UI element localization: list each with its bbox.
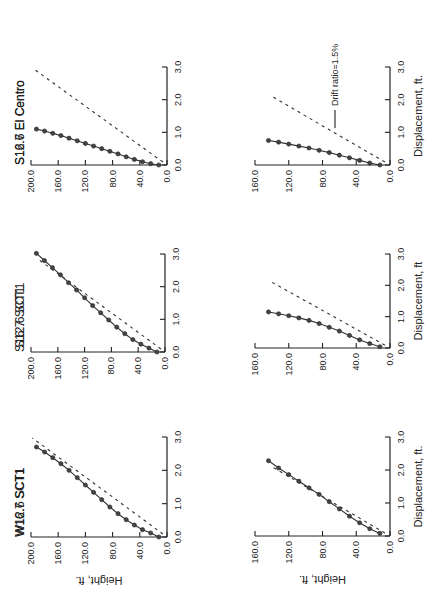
data-point-marker	[34, 445, 38, 449]
displacement-tick-label: 0.0	[173, 159, 183, 172]
data-point-marker	[83, 483, 87, 487]
displacement-tick-label: 0.0	[396, 159, 406, 172]
data-point-marker	[91, 304, 95, 308]
data-point-marker	[99, 311, 103, 315]
data-point-marker	[43, 450, 47, 454]
height-tick-label: 120.0	[284, 170, 294, 193]
data-point-marker	[115, 325, 119, 329]
legend-label: Drift ratio=1.5%	[330, 44, 340, 106]
data-point-marker	[34, 251, 38, 255]
response-curve	[36, 447, 158, 537]
height-tick-label: 120.0	[80, 542, 90, 565]
panel-title: S12.6 El Centro	[13, 80, 27, 165]
data-point-marker	[378, 531, 382, 535]
displacement-tick-label: 3.0	[396, 248, 406, 261]
data-point-marker	[43, 129, 47, 133]
drift-ratio-legend: Drift ratio=1.5%	[330, 44, 340, 128]
height-tick-label: 200.0	[26, 542, 36, 565]
displacement-tick-label: 2.0	[173, 93, 183, 106]
data-point-marker	[131, 337, 135, 341]
data-point-marker	[50, 266, 54, 270]
height-tick-label: 0.0	[385, 541, 395, 554]
height-tick-label: 40.0	[135, 170, 145, 188]
data-point-marker	[297, 316, 301, 320]
height-tick-label: 40.0	[135, 542, 145, 560]
displacement-axis-label: Displacement, ft.	[412, 446, 424, 528]
chart-panel: 0.040.080.0120.0160.00.01.02.03.0S12.6 S…	[13, 248, 424, 376]
height-tick-label: 40.0	[133, 357, 143, 375]
data-point-marker	[378, 163, 382, 167]
data-point-marker	[337, 329, 341, 333]
height-tick-label: 40.0	[351, 541, 361, 559]
displacement-tick-label: 0.0	[396, 342, 406, 355]
data-point-marker	[83, 141, 87, 145]
height-tick-label: 120.0	[284, 353, 294, 376]
height-tick-label: 0.0	[385, 353, 395, 366]
data-point-marker	[67, 136, 71, 140]
data-point-marker	[157, 163, 161, 167]
data-point-marker	[140, 528, 144, 532]
data-point-marker	[132, 523, 136, 527]
data-point-marker	[157, 535, 161, 539]
data-point-marker	[347, 156, 351, 160]
data-point-marker	[287, 473, 291, 477]
displacement-tick-label: 2.0	[396, 93, 406, 106]
data-point-marker	[124, 518, 128, 522]
data-point-marker	[140, 160, 144, 164]
displacement-tick-label: 2.0	[173, 464, 183, 477]
data-point-marker	[67, 468, 71, 472]
data-point-marker	[100, 498, 104, 502]
data-point-marker	[147, 346, 151, 350]
data-point-marker	[266, 459, 270, 463]
height-tick-label: 0.0	[160, 357, 170, 370]
data-point-marker	[139, 342, 143, 346]
data-point-marker	[327, 150, 331, 154]
displacement-tick-label: 1.0	[396, 497, 406, 510]
data-point-marker	[307, 318, 311, 322]
chart-panel: 0.040.080.0120.0160.00.01.02.03.0S12.6 E…	[13, 61, 424, 193]
data-point-marker	[51, 456, 55, 460]
data-point-marker	[124, 155, 128, 159]
height-tick-label: 160.0	[53, 542, 63, 565]
data-point-marker	[358, 158, 362, 162]
data-point-marker	[368, 527, 372, 531]
chart-panels: 0.040.080.0120.0160.0200.00.01.02.03.0W1…	[13, 61, 424, 587]
response-curve	[269, 312, 380, 347]
figure-canvas: 0.040.080.0120.0160.0200.00.01.02.03.0W1…	[0, 0, 442, 604]
height-tick-label: 80.0	[318, 170, 328, 188]
height-tick-label: 200.0	[26, 357, 36, 380]
data-point-marker	[59, 462, 63, 466]
data-point-marker	[287, 314, 291, 318]
height-tick-label: 80.0	[318, 353, 328, 371]
data-point-marker	[347, 333, 351, 337]
displacement-tick-label: 3.0	[173, 431, 183, 444]
height-tick-label: 80.0	[106, 357, 116, 375]
displacement-axis-label: Displacement, ft.	[412, 75, 424, 157]
displacement-tick-label: 1.0	[396, 310, 406, 323]
height-axis-label: Height, ft.	[75, 575, 122, 587]
drift-ratio-line	[32, 438, 163, 534]
response-curve	[269, 141, 380, 166]
data-point-marker	[307, 146, 311, 150]
data-point-marker	[317, 492, 321, 496]
displacement-tick-label: 2.0	[171, 280, 181, 293]
data-point-marker	[75, 476, 79, 480]
height-tick-label: 120.0	[80, 357, 90, 380]
data-point-marker	[91, 144, 95, 148]
displacement-tick-label: 0.0	[396, 530, 406, 543]
chart-panel: 0.040.080.0120.0160.0200.00.01.02.03.0W1…	[13, 431, 183, 587]
displacement-tick-label: 1.0	[171, 313, 181, 326]
height-tick-label: 0.0	[162, 542, 172, 555]
displacement-tick-label: 0.0	[171, 346, 181, 359]
data-point-marker	[277, 312, 281, 316]
data-point-marker	[277, 140, 281, 144]
height-tick-label: 200.0	[26, 170, 36, 193]
displacement-tick-label: 0.0	[173, 531, 183, 544]
data-point-marker	[123, 332, 127, 336]
data-point-marker	[75, 139, 79, 143]
data-point-marker	[337, 153, 341, 157]
displacement-tick-label: 3.0	[396, 431, 406, 444]
height-tick-label: 40.0	[351, 170, 361, 188]
displacement-tick-label: 2.0	[396, 464, 406, 477]
data-point-marker	[358, 338, 362, 342]
